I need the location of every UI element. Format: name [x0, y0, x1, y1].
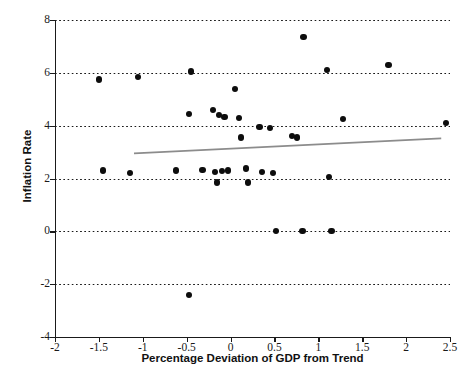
data-point — [256, 124, 262, 130]
data-point — [96, 76, 102, 82]
x-axis-label: Percentage Deviation of GDP from Trend — [55, 352, 450, 364]
data-point — [210, 107, 216, 113]
y-tick-label: -2 — [40, 278, 50, 290]
data-point — [385, 62, 391, 68]
data-point — [300, 34, 306, 40]
scatter-plot-figure: -4-202468 -2-1.5-1-0.500.511.522.5 Perce… — [0, 0, 470, 387]
data-point — [214, 179, 220, 185]
y-tick-label: 0 — [44, 226, 50, 238]
data-point — [127, 170, 133, 176]
data-point — [212, 169, 218, 175]
y-tick-label: 4 — [44, 120, 50, 132]
data-point — [238, 134, 244, 140]
trend-line — [55, 20, 450, 337]
data-point — [328, 228, 334, 234]
data-point — [267, 125, 273, 131]
data-point — [199, 167, 205, 173]
y-tick-label: 2 — [44, 173, 50, 185]
data-point — [100, 167, 106, 173]
y-tick-label: 8 — [44, 14, 50, 26]
data-point — [188, 68, 194, 74]
data-point — [219, 168, 225, 174]
data-point — [225, 167, 231, 173]
data-point — [173, 167, 179, 173]
data-point — [243, 165, 249, 171]
y-axis-label: Inflation Rate — [21, 76, 33, 256]
data-point — [270, 170, 276, 176]
data-point — [245, 179, 251, 185]
data-point — [294, 134, 300, 140]
plot-area: -4-202468 -2-1.5-1-0.500.511.522.5 — [55, 20, 450, 337]
y-tick-label: 6 — [44, 67, 50, 79]
data-point — [221, 114, 227, 120]
y-tick-label: -4 — [40, 331, 50, 343]
data-point — [443, 120, 449, 126]
data-point — [232, 86, 238, 92]
